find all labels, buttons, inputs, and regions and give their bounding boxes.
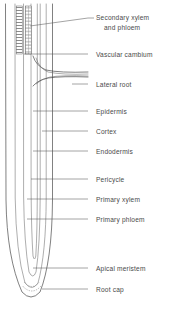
label-lateral-root: Lateral root — [96, 81, 132, 88]
root-diagram-canvas: Secondary xylem and phloem Vascular camb… — [0, 0, 170, 309]
label-vascular-cambium: Vascular cambium — [96, 51, 153, 58]
label-epidermis: Epidermis — [96, 108, 127, 116]
secondary-phloem-band — [25, 6, 31, 54]
label-primary-phloem: Primary phloem — [96, 216, 145, 224]
label-secondary-xylem-and-phloem-line2: and phloem — [104, 24, 141, 32]
secondary-xylem-band — [16, 6, 22, 54]
label-secondary-xylem-and-phloem-line1: Secondary xylem — [96, 14, 150, 22]
label-primary-xylem: Primary xylem — [96, 196, 140, 204]
label-root-cap: Root cap — [96, 286, 124, 294]
root-diagram: Secondary xylem and phloem Vascular camb… — [0, 0, 170, 309]
label-cortex: Cortex — [96, 128, 117, 135]
label-apical-meristem: Apical meristem — [96, 265, 146, 273]
label-pericycle: Pericycle — [96, 176, 125, 184]
label-endodermis: Endodermis — [96, 148, 134, 155]
